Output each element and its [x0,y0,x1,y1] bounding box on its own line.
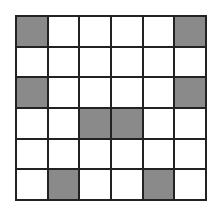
empty-cell [79,47,111,78]
shaded-cell [79,108,111,139]
empty-cell [79,77,111,108]
empty-cell [111,139,143,170]
empty-cell [16,169,48,200]
empty-cell [79,169,111,200]
empty-cell [111,77,143,108]
shaded-cell [143,169,175,200]
empty-cell [48,139,80,170]
empty-cell [16,108,48,139]
empty-cell [143,108,175,139]
shaded-cell [16,16,48,47]
shaded-cell [111,108,143,139]
empty-cell [174,169,206,200]
empty-cell [111,169,143,200]
shaded-grid [15,15,207,201]
empty-cell [48,16,80,47]
empty-cell [79,16,111,47]
shaded-cell [174,16,206,47]
empty-cell [111,16,143,47]
empty-cell [143,47,175,78]
empty-cell [79,139,111,170]
empty-cell [48,77,80,108]
empty-cell [16,139,48,170]
empty-cell [174,47,206,78]
empty-cell [143,139,175,170]
empty-cell [111,47,143,78]
empty-cell [48,47,80,78]
empty-cell [174,139,206,170]
shaded-cell [174,77,206,108]
empty-cell [143,16,175,47]
empty-cell [16,47,48,78]
shaded-cell [16,77,48,108]
empty-cell [174,108,206,139]
empty-cell [143,77,175,108]
empty-cell [48,108,80,139]
shaded-cell [48,169,80,200]
